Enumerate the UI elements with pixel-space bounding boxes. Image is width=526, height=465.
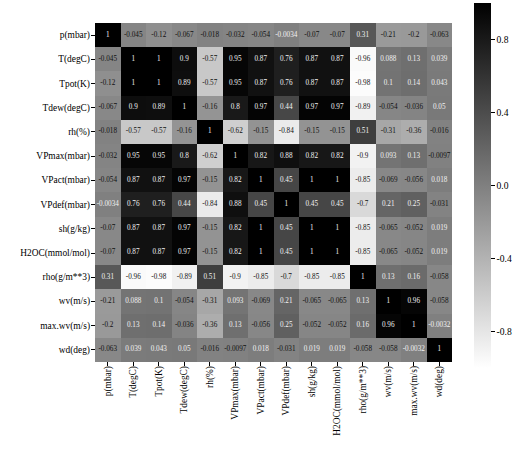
heatmap-cell: 0.44 [274, 96, 300, 120]
heatmap-cell: -0.069 [376, 168, 402, 192]
heatmap-cell: -0.15 [197, 168, 223, 192]
heatmap-cell: 0.088 [376, 47, 402, 71]
colorbar-tick-mark [491, 331, 495, 332]
colorbar-tick-text: 0.4 [497, 107, 509, 118]
heatmap-cell: 0.16 [401, 265, 427, 289]
heatmap-cell: 0.25 [401, 192, 427, 216]
heatmap-cell: 0.87 [121, 168, 147, 192]
heatmap-cell: 0.019 [427, 241, 453, 265]
heatmap-cell: -0.058 [350, 338, 376, 362]
y-axis-label-0: p(mbar) [0, 23, 91, 47]
heatmap-cell: 0.088 [121, 289, 147, 313]
heatmap-cell: -0.84 [274, 120, 300, 144]
heatmap-cell: -0.96 [121, 265, 147, 289]
heatmap-cell: 0.95 [146, 144, 172, 168]
heatmap-cell: -0.063 [95, 338, 121, 362]
x-axis-label-3: Tdew(degC) [179, 366, 189, 413]
heatmap-cell: -0.96 [350, 47, 376, 71]
heatmap-cell: 0.97 [172, 168, 198, 192]
heatmap-cell: 0.97 [248, 96, 274, 120]
heatmap-cell: 1 [325, 217, 351, 241]
heatmap-cell: -0.0034 [274, 23, 300, 47]
heatmap-cell: -0.15 [197, 241, 223, 265]
heatmap-cell: -0.07 [95, 217, 121, 241]
heatmap-cell: -0.9 [350, 144, 376, 168]
colorbar-tick-3: -0.4 [491, 253, 512, 265]
heatmap-cell: -0.065 [376, 217, 402, 241]
heatmap-cell: 0.019 [299, 338, 325, 362]
heatmap-cell: 0.45 [274, 241, 300, 265]
heatmap-cell: -0.57 [197, 47, 223, 71]
colorbar-tick-mark [491, 112, 495, 113]
heatmap-cell: 0.82 [223, 241, 249, 265]
x-axis-tick [286, 362, 287, 366]
heatmap-cell: -0.069 [248, 289, 274, 313]
heatmap-cell: 0.018 [248, 338, 274, 362]
colorbar-tick-text: -0.8 [497, 326, 512, 337]
heatmap-cell: 1 [248, 217, 274, 241]
y-axis-label-11: wv(m/s) [0, 289, 91, 313]
heatmap-cell: 0.96 [376, 314, 402, 338]
x-axis-tick [311, 362, 312, 366]
heatmap-cell: 0.76 [121, 192, 147, 216]
heatmap-cell: 0.45 [248, 192, 274, 216]
y-axis-tick [91, 277, 95, 278]
x-axis-label-13: wd(deg) [434, 366, 444, 397]
heatmap-cell: 0.76 [146, 192, 172, 216]
heatmap-cell: -0.045 [121, 23, 147, 47]
heatmap-cell: 1 [95, 23, 121, 47]
heatmap-cell: 0.82 [248, 144, 274, 168]
heatmap-cell: 0.16 [350, 314, 376, 338]
y-axis-tick [91, 180, 95, 181]
colorbar-tick-1: 0.4 [491, 107, 509, 119]
heatmap-cell: -0.0034 [95, 192, 121, 216]
heatmap-cell: 0.87 [299, 47, 325, 71]
x-axis-label-6: VPact(mbar) [256, 366, 266, 414]
heatmap-cell: 0.13 [401, 47, 427, 71]
heatmap-cell: -0.9 [223, 265, 249, 289]
heatmap-cell: 1 [146, 71, 172, 95]
heatmap-cell: -0.067 [172, 23, 198, 47]
heatmap-cell: -0.85 [325, 265, 351, 289]
heatmap-grid: 1-0.045-0.12-0.067-0.018-0.032-0.054-0.0… [95, 23, 452, 362]
x-axis-tick [184, 362, 185, 366]
heatmap-cell: 0.21 [376, 192, 402, 216]
heatmap-cell: -0.7 [350, 192, 376, 216]
heatmap-cell: 0.093 [376, 144, 402, 168]
heatmap-cell: -0.065 [299, 289, 325, 313]
heatmap-cell: 1 [299, 168, 325, 192]
heatmap-cell: 0.039 [427, 47, 453, 71]
heatmap-cell: 1 [172, 96, 198, 120]
heatmap-cell: -0.031 [274, 338, 300, 362]
heatmap-cell: -0.89 [172, 265, 198, 289]
heatmap-cell: -0.85 [350, 168, 376, 192]
heatmap-cell: -0.054 [172, 289, 198, 313]
heatmap-cell: 1 [376, 289, 402, 313]
heatmap-cell: -0.57 [146, 120, 172, 144]
heatmap-cell: 0.039 [121, 338, 147, 362]
x-axis-tick [439, 362, 440, 366]
heatmap-cell: -0.85 [299, 265, 325, 289]
x-axis-label-8: sh(g/kg) [307, 366, 317, 397]
heatmap-cell: 0.89 [172, 71, 198, 95]
heatmap-cell: -0.052 [299, 314, 325, 338]
x-axis-label-4: rh(%) [205, 366, 215, 388]
heatmap-cell: 0.76 [274, 71, 300, 95]
heatmap-cell: 0.21 [274, 289, 300, 313]
y-axis-tick-labels: p(mbar)T(degC)Tpot(K)Tdew(degC)rh(%)VPma… [0, 23, 91, 362]
heatmap-cell: 0.87 [146, 168, 172, 192]
heatmap-cell: -0.62 [223, 120, 249, 144]
colorbar-tick-text: 0.0 [497, 180, 509, 191]
heatmap-cell: -0.056 [248, 314, 274, 338]
heatmap-cell: 1 [427, 338, 453, 362]
heatmap-cell: -0.058 [427, 289, 453, 313]
heatmap-cell: -0.058 [427, 265, 453, 289]
heatmap-cell: 0.45 [325, 192, 351, 216]
x-axis-tick [388, 362, 389, 366]
heatmap-cell: -0.07 [325, 23, 351, 47]
heatmap-cell: -0.058 [376, 338, 402, 362]
heatmap-cell: 0.87 [248, 71, 274, 95]
heatmap-cell: -0.065 [325, 289, 351, 313]
heatmap-cell: 0.8 [172, 144, 198, 168]
heatmap-cell: -0.067 [95, 96, 121, 120]
